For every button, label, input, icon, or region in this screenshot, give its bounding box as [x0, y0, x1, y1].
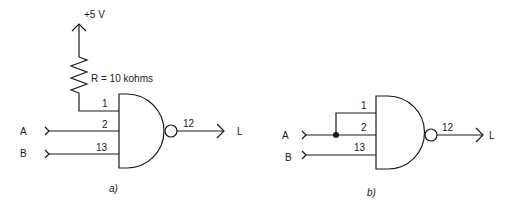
input-a-label: A — [282, 130, 289, 141]
resistor-label: R = 10 kohms — [91, 73, 153, 84]
output-l-label: L — [237, 126, 243, 137]
caption-b: b) — [367, 187, 376, 198]
pin-1-label: 1 — [102, 98, 108, 109]
input-b-label: B — [285, 152, 292, 163]
pin-12-label: 12 — [442, 122, 454, 133]
figure-b: A 1 2 B 13 12 L b) — [282, 96, 495, 198]
pullup-wire — [79, 93, 119, 111]
output-l-label: L — [489, 130, 495, 141]
pin-2-label: 2 — [361, 122, 367, 133]
input-b-chevron-icon — [45, 150, 49, 158]
resistor-icon — [71, 57, 87, 93]
input-a-chevron-icon — [45, 127, 49, 135]
pin-13-label: 13 — [354, 142, 366, 153]
input-a-label: A — [20, 126, 27, 137]
caption-a: a) — [109, 183, 118, 194]
input-b-label: B — [20, 148, 27, 159]
supply-arrow-icon — [72, 24, 86, 57]
figure-a: +5 V R = 10 kohms 1 A 2 B 13 12 L a) — [20, 9, 243, 194]
circuit-diagram: +5 V R = 10 kohms 1 A 2 B 13 12 L a) A — [0, 0, 517, 207]
input-b-chevron-icon — [302, 151, 306, 159]
pin-2-label: 2 — [102, 119, 108, 130]
supply-label: +5 V — [84, 9, 105, 20]
pin-13-label: 13 — [96, 142, 108, 153]
inversion-bubble-icon — [425, 129, 437, 141]
nand-gate-icon — [376, 96, 424, 169]
pin-1-label: 1 — [361, 100, 367, 111]
input-a-chevron-icon — [302, 131, 306, 139]
pin-1-tie-wire — [336, 113, 376, 135]
nand-gate-icon — [119, 94, 164, 168]
inversion-bubble-icon — [165, 125, 177, 137]
pin-12-label: 12 — [183, 118, 195, 129]
